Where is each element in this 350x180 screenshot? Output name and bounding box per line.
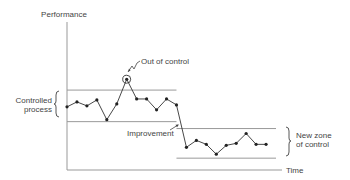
data-point bbox=[75, 100, 78, 103]
data-point bbox=[145, 97, 148, 100]
data-point bbox=[95, 98, 98, 101]
data-point bbox=[165, 97, 168, 100]
performance-series bbox=[65, 78, 267, 156]
controlled-process-label-line1: Controlled bbox=[16, 96, 52, 105]
data-point bbox=[85, 104, 88, 107]
data-point bbox=[185, 146, 188, 149]
data-point bbox=[215, 153, 218, 156]
data-point bbox=[225, 144, 228, 147]
out-of-control-label: Out of control bbox=[141, 57, 189, 66]
improvement-label: Improvement bbox=[127, 129, 174, 138]
data-point bbox=[135, 97, 138, 100]
new-zone-label-line2: of control bbox=[296, 140, 329, 149]
data-point bbox=[254, 143, 257, 146]
data-point bbox=[155, 108, 158, 111]
y-axis-label: Performance bbox=[41, 10, 87, 19]
data-point bbox=[125, 78, 128, 81]
data-point bbox=[235, 142, 238, 145]
data-point bbox=[115, 102, 118, 105]
data-point bbox=[205, 143, 208, 146]
control-chart-diagram: Performance Time Out of control Controll… bbox=[0, 0, 350, 180]
data-point bbox=[195, 139, 198, 142]
data-point bbox=[65, 105, 68, 108]
data-point bbox=[245, 132, 248, 135]
new-zone-brace-icon bbox=[286, 127, 291, 156]
controlled-process-label-line2: process bbox=[24, 105, 52, 114]
data-point bbox=[105, 118, 108, 121]
new-zone-label-line1: New zone bbox=[296, 131, 332, 140]
data-point bbox=[175, 103, 178, 106]
controlled-process-brace-icon bbox=[54, 91, 59, 117]
x-axis-label: Time bbox=[286, 166, 304, 175]
data-point bbox=[264, 143, 267, 146]
